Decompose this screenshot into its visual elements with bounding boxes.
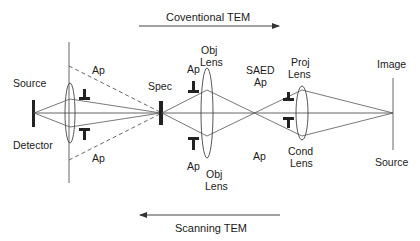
obj-lens-bottom-label-2: Lens	[205, 180, 228, 192]
proj-lens-label-1: Proj	[291, 56, 310, 68]
cond-lens-label-1: Cond	[288, 145, 313, 157]
proj-lens-label-2: Lens	[288, 68, 311, 80]
saed-aperture-top-icon	[283, 92, 294, 101]
cond-lens-label-2: Lens	[290, 157, 313, 169]
aperture-top-obj-icon	[188, 81, 199, 93]
saed-ap-bottom-label: Ap	[253, 150, 266, 162]
obj-ap-top-label: Ap	[187, 63, 200, 75]
conventional-tem-label: Coventional TEM	[166, 11, 250, 23]
aperture-top-left-icon	[79, 89, 90, 100]
obj-lens-bottom-label-1: Obj	[206, 168, 222, 180]
tem-stem-ray-diagram	[0, 0, 420, 241]
obj-lens-top-label-1: Obj	[201, 44, 217, 56]
image-label: Image	[377, 58, 406, 70]
aperture-top-left-label: Ap	[92, 64, 105, 76]
aperture-bottom-left-icon	[79, 128, 90, 140]
dashed-ray-top	[69, 66, 160, 112]
source-label-right: Source	[375, 156, 408, 168]
scanning-tem-label: Scanning TEM	[175, 222, 247, 234]
aperture-bottom-left-label: Ap	[92, 152, 105, 164]
obj-ap-bottom-label: Ap	[187, 160, 200, 172]
source-label-left: Source	[13, 77, 46, 89]
saed-aperture-bottom-icon	[283, 117, 294, 128]
specimen-label: Spec	[148, 80, 172, 92]
dashed-ray-bottom	[69, 114, 160, 160]
aperture-bottom-obj-icon	[188, 137, 199, 150]
obj-lens-top-label-2: Lens	[200, 56, 223, 68]
saed-label-1: SAED	[246, 64, 275, 76]
saed-label-2: Ap	[254, 76, 267, 88]
detector-label: Detector	[13, 139, 53, 151]
